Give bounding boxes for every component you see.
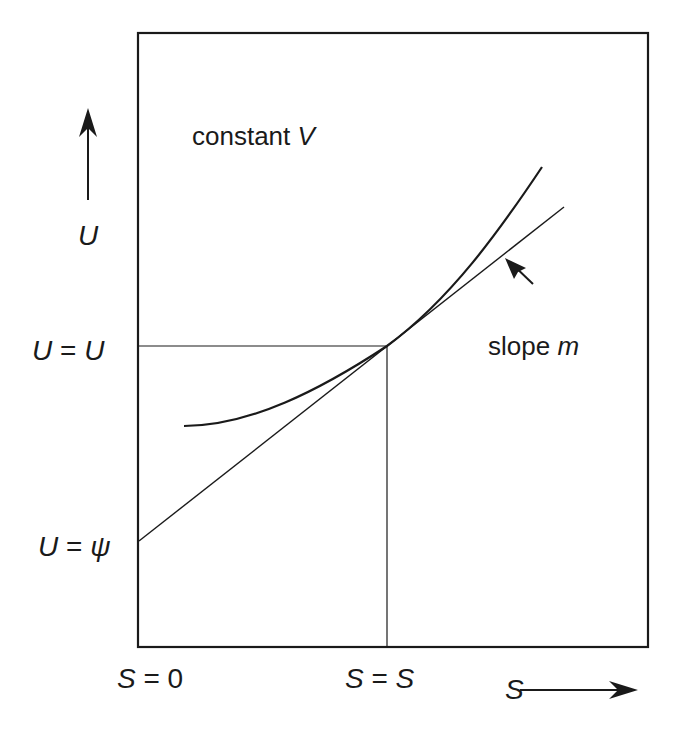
condition-label: constant V (192, 121, 318, 151)
u-vs-s-diagram: constant V slope m U U = U U = ψ S = 0 S… (0, 0, 682, 733)
energy-curve (184, 167, 542, 426)
y-axis-label: U (78, 220, 99, 251)
right-arrow-icon (520, 681, 638, 699)
slope-label: slope m (488, 331, 579, 361)
slope-pointer-arrow-icon (505, 258, 533, 284)
up-arrow-icon (79, 108, 97, 200)
y-tick-u-equals-psi: U = ψ (38, 531, 111, 562)
x-tick-s-equals-0: S = 0 (117, 663, 183, 694)
y-tick-u-equals-u: U = U (32, 335, 105, 366)
x-tick-s-equals-s: S = S (345, 663, 415, 694)
tangent-line (139, 207, 564, 541)
